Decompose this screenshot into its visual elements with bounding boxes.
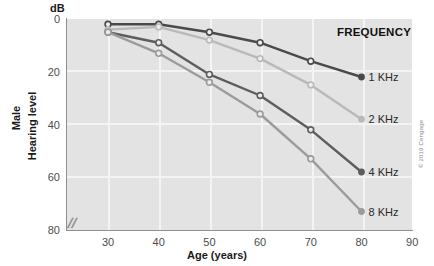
data-point	[257, 56, 263, 62]
y-axis-title: Hearing level	[26, 81, 38, 171]
data-point	[359, 209, 364, 214]
data-point	[257, 111, 263, 117]
data-point	[207, 37, 213, 43]
data-point	[257, 93, 263, 99]
series-line-1-khz	[108, 24, 362, 77]
y-tick-label: 80	[30, 224, 60, 236]
series-line-4-khz	[108, 32, 362, 172]
legend-label-1-khz: 1 KHz	[369, 71, 399, 83]
series-line-8-khz	[108, 32, 362, 211]
x-tick-label: 60	[254, 236, 266, 248]
x-tick-label: 80	[355, 236, 367, 248]
x-tick-label: 70	[305, 236, 317, 248]
legend-title: FREQUENCY	[337, 26, 411, 38]
legend-label-4-khz: 4 KHz	[369, 166, 399, 178]
data-point	[207, 72, 213, 78]
x-tick-label: 40	[153, 236, 165, 248]
data-point	[105, 29, 111, 35]
y-axis-group-label: Male	[10, 88, 22, 148]
copyright-credit: © 2019 Cengage	[418, 120, 424, 168]
y-tick-label: 60	[30, 171, 60, 183]
data-point	[308, 127, 314, 133]
data-point	[257, 40, 263, 46]
data-point	[207, 29, 213, 35]
y-axis-unit-label: dB	[50, 2, 65, 14]
hearing-level-chart: // 020406080 30405060708090 dB Age (year…	[0, 0, 434, 266]
data-point	[359, 74, 364, 79]
data-point	[359, 169, 364, 174]
x-tick-label: 50	[203, 236, 215, 248]
data-point	[359, 117, 364, 122]
data-point	[308, 58, 314, 64]
data-point	[308, 82, 314, 88]
data-point	[207, 79, 213, 85]
x-axis-title: Age (years)	[0, 249, 434, 261]
data-point	[156, 40, 162, 46]
data-point	[308, 156, 314, 162]
data-point	[156, 24, 162, 30]
legend-label-2-khz: 2 KHz	[369, 113, 399, 125]
x-tick-label: 30	[102, 236, 114, 248]
y-tick-label: 0	[30, 13, 60, 25]
x-tick-label: 90	[406, 236, 418, 248]
y-tick-label: 20	[30, 66, 60, 78]
data-point	[156, 50, 162, 56]
series-layer	[0, 0, 434, 266]
legend-label-8-khz: 8 KHz	[369, 206, 399, 218]
